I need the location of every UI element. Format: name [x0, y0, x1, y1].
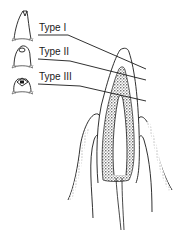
tooth-type-diagram: Type I Type II Type III — [0, 0, 179, 235]
type-ii-icon — [12, 46, 33, 68]
root-canal — [116, 178, 124, 230]
label-type-iii: Type III — [39, 72, 72, 82]
diagram-svg — [0, 0, 179, 235]
label-type-i: Type I — [39, 23, 66, 33]
type-i-icon — [12, 11, 33, 41]
type-iii-icon — [12, 78, 33, 94]
label-type-ii: Type II — [39, 47, 69, 57]
